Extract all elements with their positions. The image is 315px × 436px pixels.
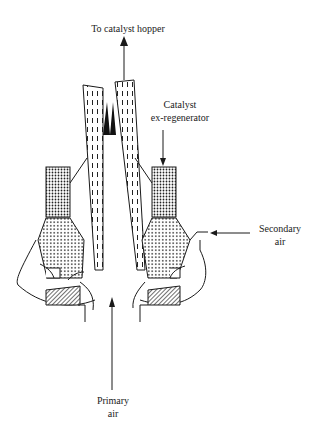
diagram-drawing bbox=[0, 0, 315, 436]
label-to-catalyst-hopper: To catalyst hopper bbox=[78, 22, 178, 35]
label-line: Primary bbox=[88, 394, 138, 407]
primary-air-arrow bbox=[109, 297, 115, 390]
right-standpipe bbox=[135, 158, 208, 322]
label-line: air bbox=[250, 235, 310, 248]
top-arrow bbox=[120, 36, 128, 80]
left-standpipe bbox=[17, 158, 95, 322]
diagram-canvas: To catalyst hopper Catalyst ex-regenerat… bbox=[0, 0, 315, 436]
left-riser-tube bbox=[83, 85, 103, 270]
label-text: To catalyst hopper bbox=[91, 23, 165, 34]
center-spikes bbox=[103, 102, 116, 135]
label-secondary-air: Secondary air bbox=[250, 222, 310, 248]
label-catalyst-ex-regenerator: Catalyst ex-regenerator bbox=[140, 98, 220, 124]
label-primary-air: Primary air bbox=[88, 394, 138, 420]
catalyst-arrow bbox=[160, 130, 166, 166]
label-line: Secondary bbox=[250, 222, 310, 235]
label-line: ex-regenerator bbox=[140, 111, 220, 124]
label-line: air bbox=[88, 407, 138, 420]
label-line: Catalyst bbox=[140, 98, 220, 111]
secondary-air-arrow bbox=[210, 230, 250, 236]
